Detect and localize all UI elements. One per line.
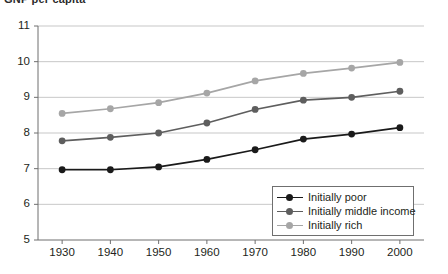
- legend-swatch-icon: [277, 219, 303, 231]
- x-tick-label: 2000: [380, 246, 420, 258]
- legend-item: Initially poor: [277, 190, 407, 204]
- legend-label: Initially middle income: [308, 205, 416, 217]
- chart-legend: Initially poorInitially middle incomeIni…: [272, 186, 414, 236]
- legend-item: Initially rich: [277, 218, 407, 232]
- y-tick-label: 5: [4, 233, 30, 245]
- x-tick-label: 1970: [235, 246, 275, 258]
- legend-swatch-icon: [277, 205, 303, 217]
- legend-label: Initially rich: [308, 219, 362, 231]
- x-tick-label: 1930: [42, 246, 82, 258]
- data-series-group: [59, 59, 404, 173]
- x-tick-label: 1990: [332, 246, 372, 258]
- y-tick-label: 10: [4, 55, 30, 67]
- y-tick-label: 9: [4, 90, 30, 102]
- y-tick-label: 11: [4, 19, 30, 31]
- y-tick-label: 6: [4, 197, 30, 209]
- x-tick-label: 1940: [90, 246, 130, 258]
- x-tick-label: 1950: [139, 246, 179, 258]
- chart-page: GNP per capita 567891011 193019401950196…: [0, 0, 448, 274]
- legend-item: Initially middle income: [277, 204, 407, 218]
- x-tick-label: 1980: [283, 246, 323, 258]
- legend-swatch-icon: [277, 191, 303, 203]
- gridlines: [38, 26, 424, 204]
- y-tick-label: 8: [4, 126, 30, 138]
- x-tick-label: 1960: [187, 246, 227, 258]
- legend-label: Initially poor: [308, 191, 367, 203]
- y-tick-label: 7: [4, 162, 30, 174]
